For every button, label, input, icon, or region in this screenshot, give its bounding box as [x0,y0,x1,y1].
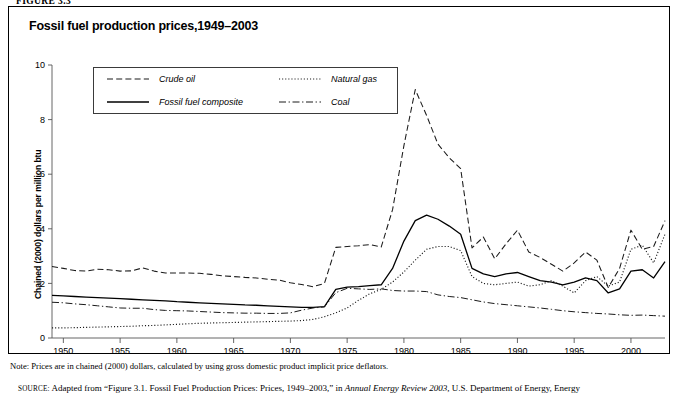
x-tick-label: 2000 [621,346,641,355]
legend-swatch-dashdot [278,97,322,107]
source-text-part1: Adapted from “Figure 3.1. Fossil Fuel Pr… [50,383,345,393]
source-prefix: SOURCE: [18,385,50,393]
figure-panel: Fossil fuel production prices,1949–2003 … [8,6,670,354]
x-tick-label: 1985 [451,346,471,355]
series-line-fossil-fuel-composite [52,215,665,307]
x-tick-label: 1975 [337,346,357,355]
y-tick-label: 10 [35,60,45,70]
series-line-crude-oil [52,90,665,288]
x-tick-label: 1955 [110,346,130,355]
y-tick-label: 2 [40,279,45,289]
chart-note: Note: Prices are in chained (2000) dolla… [10,361,388,371]
legend-item: Natural gas [266,74,399,84]
chart-source: SOURCE: Adapted from “Figure 3.1. Fossil… [18,383,580,393]
x-tick-label: 1950 [53,346,73,355]
legend-swatch-dotted [278,74,322,84]
legend-label: Natural gas [331,74,377,84]
chart-legend: Crude oilNatural gasFossil fuel composit… [93,67,398,114]
legend-item: Fossil fuel composite [94,97,266,107]
legend-swatch-dashed [106,74,150,84]
y-tick-label: 6 [40,169,45,179]
x-tick-label: 1965 [224,346,244,355]
legend-label: Crude oil [159,74,195,84]
x-tick-label: 1980 [394,346,414,355]
x-tick-label: 1970 [280,346,300,355]
x-tick-label: 1960 [167,346,187,355]
legend-label: Fossil fuel composite [159,97,243,107]
x-tick-label: 1990 [507,346,527,355]
y-tick-label: 8 [40,115,45,125]
line-chart: 0246810195019551960196519701975198019851… [9,7,671,355]
x-tick-label: 1995 [564,346,584,355]
source-publication-title: Annual Energy Review 2003 [345,383,447,393]
y-tick-label: 4 [40,224,45,234]
y-tick-label: 0 [40,333,45,343]
legend-label: Coal [331,97,350,107]
legend-item: Coal [266,97,399,107]
legend-item: Crude oil [94,74,266,84]
series-line-natural-gas [52,234,665,328]
source-text-part2: , U.S. Department of Energy, Energy [447,383,580,393]
legend-swatch-solid [106,97,150,107]
plot-area: 0246810195019551960196519701975198019851… [9,7,671,355]
